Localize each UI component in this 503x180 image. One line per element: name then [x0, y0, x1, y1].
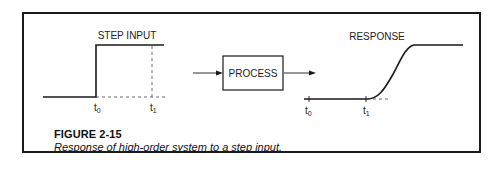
response-t0-label: t0 — [305, 105, 312, 117]
step-signal-line — [43, 45, 164, 97]
arrowhead-icon — [216, 71, 223, 76]
response-label: RESPONSE — [349, 31, 405, 42]
step-t0-label: t0 — [94, 102, 101, 114]
output-arrow — [284, 71, 316, 76]
step-t1-label: t1 — [150, 102, 157, 114]
process-label: PROCESS — [229, 68, 278, 79]
response-graph: RESPONSE t0 t1 — [304, 31, 463, 117]
process-block: PROCESS — [223, 56, 283, 90]
figure-number: FIGURE 2-15 — [54, 128, 122, 140]
input-arrow — [193, 71, 223, 76]
arrowhead-icon — [309, 71, 316, 76]
response-t1-label: t1 — [363, 105, 370, 117]
response-curve — [304, 45, 463, 99]
step-input-graph: STEP INPUT t0 t1 — [43, 30, 166, 114]
step-input-label: STEP INPUT — [98, 30, 157, 41]
block-diagram: STEP INPUT t0 t1 PROCESS RESPONSE t0 t1 — [0, 0, 503, 180]
figure-caption: Response of high-order system to a step … — [54, 141, 282, 153]
